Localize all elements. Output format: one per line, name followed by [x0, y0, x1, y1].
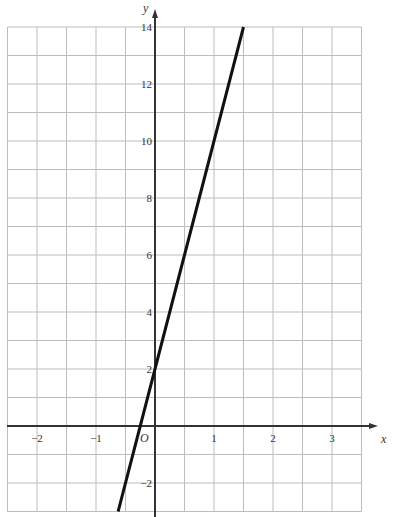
y-axis-arrow-icon: [152, 9, 158, 18]
y-tick-label: −2: [140, 477, 152, 489]
line-y-equals-8x-plus-2: [118, 27, 243, 512]
y-tick-label: 4: [147, 306, 153, 318]
coordinate-plane: −2−1123−22468101214 x y O: [0, 0, 394, 517]
y-axis-label: y: [142, 1, 149, 15]
y-tick-label: 8: [147, 192, 153, 204]
y-tick-label: 14: [141, 21, 153, 33]
x-tick-label: 1: [211, 432, 217, 444]
axes: [7, 9, 378, 517]
x-tick-label: 3: [329, 432, 335, 444]
x-tick-label: −2: [31, 432, 43, 444]
x-tick-label: 2: [270, 432, 276, 444]
y-tick-label: 10: [141, 135, 153, 147]
grid-lines: [8, 27, 362, 512]
y-tick-label: 6: [147, 249, 153, 261]
data-series: [118, 27, 243, 512]
x-axis-label: x: [380, 432, 387, 446]
x-axis-arrow-icon: [369, 423, 378, 429]
y-tick-label: 12: [141, 78, 152, 90]
x-tick-label: −1: [90, 432, 102, 444]
origin-label: O: [140, 431, 149, 445]
y-tick-label: 2: [147, 363, 153, 375]
